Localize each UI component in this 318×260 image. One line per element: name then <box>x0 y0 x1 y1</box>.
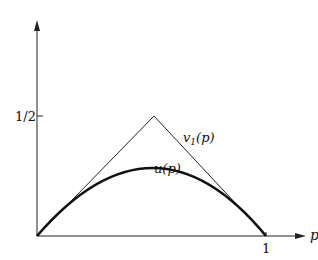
y-tick-label-half: 1/2 <box>15 109 36 124</box>
x-tick-label-one: 1 <box>262 241 270 256</box>
y-axis-arrow-icon <box>34 20 40 31</box>
v1-label: v1(p) <box>183 130 215 147</box>
x-axis-label: p <box>310 227 318 243</box>
chart-canvas: 1/2 1 p v1(p) u(p) <box>0 0 318 260</box>
series-v1 <box>37 116 266 236</box>
u-label: u(p) <box>154 161 181 176</box>
x-axis-arrow-icon <box>295 233 306 239</box>
series-u <box>37 168 266 236</box>
